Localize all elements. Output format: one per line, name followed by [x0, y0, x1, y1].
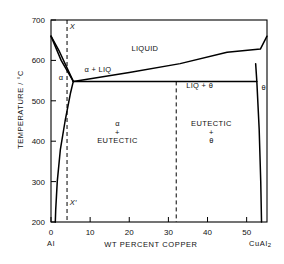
y-axis-title: TEMPERATURE / °C [16, 65, 25, 155]
x-tick-label-40: 40 [203, 228, 212, 237]
y-axis-ticks [51, 20, 56, 222]
plot-frame [51, 20, 267, 222]
phase-label-liquid-plus-theta: LIQ + θ [186, 81, 213, 90]
x-tick-label-10: 10 [86, 228, 95, 237]
x-axis-title: WT PERCENT COPPER [104, 240, 197, 249]
x-tick-label-30: 30 [164, 228, 173, 237]
phase-boundary-curves [51, 36, 267, 222]
x-axis-endpoint-cual2: CuAl2 [249, 239, 272, 248]
phase-label-eutectic-plus-theta: EUTECTIC + θ [191, 120, 232, 146]
phase-label-theta: θ [262, 83, 266, 92]
phase-label-alpha-plus-eutectic: α + EUTECTIC [97, 120, 138, 146]
alpha-eutectic-line-3: EUTECTIC [97, 137, 138, 146]
curve-liquidus-cu-rich-toward-cual2- [73, 36, 267, 81]
x-tick-label-0: 0 [49, 228, 53, 237]
cual2-text: CuAl [249, 239, 268, 248]
y-tick-label-300: 300 [32, 177, 45, 186]
y-tick-label-700: 700 [32, 16, 45, 25]
eutectic-theta-line-3: θ [191, 137, 232, 146]
y-tick-label-600: 600 [32, 56, 45, 65]
x-tick-label-20: 20 [125, 228, 134, 237]
annotation-alloy-line-x-prime: X′ [70, 197, 77, 206]
phase-diagram-figure: TEMPERATURE / °C 700 600 500 400 300 200… [0, 0, 284, 264]
phase-label-alpha-plus-liquid: α + LIQ [84, 65, 111, 74]
y-tick-label-200: 200 [32, 218, 45, 227]
y-tick-label-500: 500 [32, 96, 45, 105]
x-axis-endpoint-al: Al [47, 239, 55, 248]
x-tick-label-50: 50 [242, 228, 251, 237]
y-tick-label-400: 400 [32, 137, 45, 146]
x-axis-ticks [51, 217, 247, 222]
annotation-alloy-line-x: X [70, 21, 75, 30]
phase-label-liquid: LIQUID [132, 44, 159, 53]
phase-label-alpha: α [59, 72, 64, 81]
cual2-subscript: 2 [268, 242, 272, 248]
